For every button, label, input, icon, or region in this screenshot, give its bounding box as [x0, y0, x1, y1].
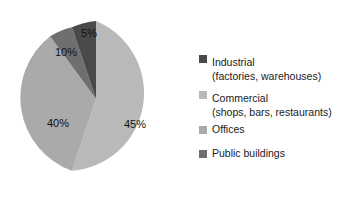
pie-chart-figure: 45% 40% 10% 5% Industrial (factories, wa…: [0, 0, 352, 197]
pie-label-industrial: 5%: [81, 27, 97, 39]
legend-sublabel-commercial: (shops, bars, restaurants): [212, 106, 332, 119]
legend-label-industrial: Industrial: [212, 56, 255, 68]
legend-swatch-public-buildings: [199, 150, 207, 158]
legend-item-industrial[interactable]: Industrial (factories, warehouses): [199, 52, 349, 83]
pie-label-public-buildings: 10%: [55, 46, 77, 58]
legend-label-commercial-group: Commercial (shops, bars, restaurants): [212, 88, 332, 119]
legend-item-commercial[interactable]: Commercial (shops, bars, restaurants): [199, 88, 349, 119]
legend: Industrial (factories, warehouses) Comme…: [199, 52, 349, 164]
legend-swatch-commercial: [199, 91, 207, 99]
legend-label-public-buildings: Public buildings: [212, 147, 285, 160]
pie-label-offices: 40%: [47, 117, 69, 129]
pie-label-commercial: 45%: [124, 118, 146, 130]
legend-swatch-offices: [199, 126, 207, 134]
legend-item-public-buildings[interactable]: Public buildings: [199, 147, 349, 160]
pie-chart-plot: 45% 40% 10% 5%: [17, 14, 177, 184]
legend-label-commercial: Commercial: [212, 92, 268, 104]
pie-svg: 45% 40% 10% 5%: [17, 14, 177, 184]
legend-label-industrial-group: Industrial (factories, warehouses): [212, 52, 321, 83]
legend-swatch-industrial: [199, 55, 207, 63]
legend-label-offices: Offices: [212, 123, 244, 136]
legend-sublabel-industrial: (factories, warehouses): [212, 70, 321, 83]
legend-item-offices[interactable]: Offices: [199, 123, 349, 136]
